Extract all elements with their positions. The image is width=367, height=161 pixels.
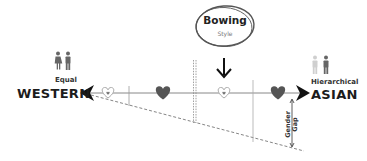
heart-filled-icon xyxy=(156,86,170,99)
gender-gap-label: Gender Gap xyxy=(270,115,314,133)
arrow-down-icon xyxy=(217,58,231,77)
right-pole-label: ASIAN xyxy=(311,88,358,101)
man-woman-icon xyxy=(313,56,329,75)
heart-outline-icon xyxy=(218,87,230,98)
man-woman-icon xyxy=(55,52,71,71)
heart-filled-icon xyxy=(271,86,285,99)
right-pole-qualifier: Hierarchical xyxy=(311,79,358,86)
gender-gap-line2: Gap xyxy=(292,111,299,138)
left-pole-qualifier: Equal xyxy=(55,77,77,84)
left-pole-label: WESTERN xyxy=(17,87,90,100)
callout-title: Bowing xyxy=(196,15,254,26)
heart-outline-icon xyxy=(102,87,114,98)
callout-subtitle: Style xyxy=(196,31,254,37)
bowing-callout-ring xyxy=(195,4,256,48)
